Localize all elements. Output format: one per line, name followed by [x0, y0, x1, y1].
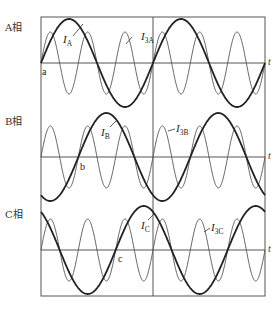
- phase-b-harmonic-label-leader-line: [168, 129, 175, 131]
- phase-a-fundamental-label-subscript: A: [67, 39, 73, 48]
- phase-c-label: C相: [5, 208, 23, 220]
- phase-b-harmonic-label: I3B: [175, 122, 188, 137]
- three-phase-harmonic-diagram: A相tIAI3AaB相tIBI3BbC相tICI3Cc: [0, 0, 278, 311]
- phase-c-zero-crossing-point: c: [118, 253, 123, 264]
- phase-b-time-axis-label: t: [268, 150, 271, 161]
- phase-c-harmonic-label-subscript: 3C: [215, 227, 224, 236]
- phase-a-label: A相: [4, 21, 22, 33]
- phase-c-time-axis-label: t: [268, 243, 271, 254]
- phase-c-fundamental-label-subscript: C: [145, 225, 150, 234]
- phase-b-harmonic-label-subscript: 3B: [180, 128, 189, 137]
- phase-b-label: B相: [5, 115, 22, 127]
- phase-b-fundamental-label-subscript: B: [105, 132, 110, 141]
- phase-c-harmonic-label: I3C: [210, 221, 223, 236]
- phase-c-fundamental-label: IC: [140, 219, 150, 234]
- phase-b-group: B相tIBI3Bb: [5, 113, 271, 201]
- phase-b-zero-crossing-point: b: [80, 161, 85, 172]
- phase-a-group: A相tIAI3Aa: [4, 19, 271, 107]
- phase-a-harmonic-label-subscript: 3A: [145, 36, 155, 45]
- phase-groups: A相tIAI3AaB相tIBI3BbC相tICI3Cc: [4, 19, 271, 294]
- phase-a-time-axis-label: t: [268, 56, 271, 67]
- phase-c-group: C相tICI3Cc: [5, 206, 271, 294]
- phase-b-fundamental-label: IB: [100, 126, 110, 141]
- phase-a-fundamental-label: IA: [62, 33, 73, 48]
- phase-b-fundamental-label-leader-line: [110, 120, 117, 127]
- phase-a-harmonic-label: I3A: [140, 30, 154, 45]
- waveform-canvas: A相tIAI3AaB相tIBI3BbC相tICI3Cc: [0, 0, 278, 311]
- phase-a-zero-crossing-point: a: [42, 66, 47, 77]
